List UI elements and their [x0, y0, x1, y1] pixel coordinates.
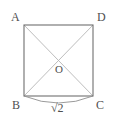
vertex-label-d: D: [97, 11, 106, 23]
side-length-label: √2: [51, 102, 64, 114]
center-point-label-o: O: [55, 64, 63, 75]
vertex-label-c: C: [96, 99, 104, 111]
vertex-label-b: B: [12, 99, 20, 111]
diagonal-group: [24, 25, 93, 96]
geometry-figure: A D B C O √2: [0, 0, 116, 119]
vertex-label-a: A: [11, 11, 20, 23]
